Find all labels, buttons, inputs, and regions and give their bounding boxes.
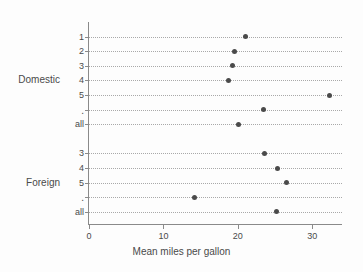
data-point[interactable] xyxy=(192,195,197,200)
y-tick-mark xyxy=(85,51,88,52)
x-tick-label: 10 xyxy=(148,231,178,241)
x-axis-title: Mean miles per gallon xyxy=(0,246,363,257)
data-point[interactable] xyxy=(236,122,241,127)
data-point[interactable] xyxy=(275,166,280,171)
data-point[interactable] xyxy=(226,78,231,83)
y-tick-label: 5 xyxy=(44,91,84,100)
y-tick-mark xyxy=(85,124,88,125)
gridline xyxy=(89,124,342,125)
data-point[interactable] xyxy=(261,107,266,112)
x-tick-mark xyxy=(238,225,239,229)
gridline xyxy=(89,197,342,198)
chart-container: 1234Domestic5.all345Foreign.all 0102030 … xyxy=(0,0,363,272)
y-tick-mark xyxy=(85,95,88,96)
y-tick-label: 3 xyxy=(44,61,84,70)
gridline xyxy=(89,212,342,213)
group-label-domestic: Domestic xyxy=(0,75,60,85)
gridline xyxy=(89,110,342,111)
data-point[interactable] xyxy=(284,180,289,185)
x-tick-label: 0 xyxy=(74,231,104,241)
x-tick-mark xyxy=(163,225,164,229)
gridline xyxy=(89,37,342,38)
y-axis-line xyxy=(88,22,89,225)
data-point[interactable] xyxy=(243,34,248,39)
data-point[interactable] xyxy=(274,209,279,214)
x-tick-label: 30 xyxy=(297,231,327,241)
gridline xyxy=(89,80,342,81)
gridline xyxy=(89,95,342,96)
data-point[interactable] xyxy=(232,49,237,54)
gridline xyxy=(89,183,342,184)
x-tick-mark xyxy=(89,225,90,229)
y-tick-mark xyxy=(85,80,88,81)
group-label-foreign: Foreign xyxy=(0,178,60,188)
x-axis-line xyxy=(88,224,342,225)
y-tick-mark xyxy=(85,212,88,213)
gridline xyxy=(89,51,342,52)
y-tick-label: all xyxy=(44,120,84,129)
y-tick-mark xyxy=(85,197,88,198)
gridline xyxy=(89,153,342,154)
data-point[interactable] xyxy=(327,93,332,98)
y-tick-label: 2 xyxy=(44,47,84,56)
x-tick-label: 20 xyxy=(223,231,253,241)
y-tick-mark xyxy=(85,66,88,67)
plot-area xyxy=(89,22,342,225)
gridline xyxy=(89,66,342,67)
y-tick-mark xyxy=(85,153,88,154)
y-tick-label: all xyxy=(44,207,84,216)
gridline xyxy=(89,168,342,169)
y-tick-label: . xyxy=(44,105,84,114)
y-tick-mark xyxy=(85,168,88,169)
data-point[interactable] xyxy=(262,151,267,156)
data-point[interactable] xyxy=(230,63,235,68)
y-tick-mark xyxy=(85,37,88,38)
y-tick-mark xyxy=(85,110,88,111)
y-tick-label: 3 xyxy=(44,149,84,158)
y-tick-label: 4 xyxy=(44,164,84,173)
y-tick-mark xyxy=(85,183,88,184)
y-tick-label: 1 xyxy=(44,32,84,41)
y-tick-label: . xyxy=(44,193,84,202)
x-tick-mark xyxy=(312,225,313,229)
